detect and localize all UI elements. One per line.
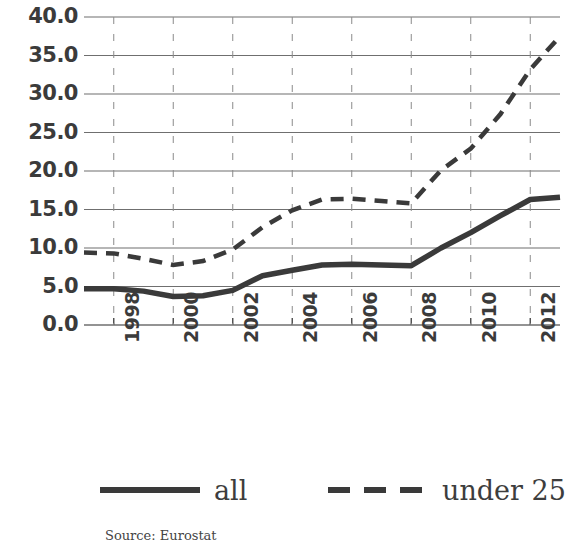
source-note: Source: Eurostat [105, 528, 217, 543]
series-line-under-25 [84, 36, 560, 265]
x-axis-tick-label: 2004 [301, 292, 320, 343]
chart-plot-area [0, 0, 576, 340]
x-axis-tick-label: 2008 [420, 292, 439, 343]
legend-label-all: all [214, 477, 247, 504]
y-axis-tick-label: 5.0 [0, 276, 78, 297]
y-axis-tick-label: 10.0 [0, 237, 78, 258]
x-axis-tick-label: 2006 [361, 292, 380, 343]
x-axis-tick-label: 2010 [480, 292, 499, 343]
gridlines [84, 17, 560, 325]
x-axis-tick-label: 2012 [539, 292, 558, 343]
y-axis-tick-label: 30.0 [0, 83, 78, 104]
y-axis-tick-label: 0.0 [0, 314, 78, 335]
line-chart-figure: 40.035.030.025.020.015.010.05.00.0 19982… [0, 0, 576, 555]
legend-entry-under-25: under 25 [328, 470, 566, 510]
legend-entry-all: all [100, 470, 247, 510]
series-line-all [84, 197, 560, 296]
legend-label-under-25: under 25 [442, 477, 566, 504]
y-axis-tick-label: 25.0 [0, 122, 78, 143]
y-axis-tick-label: 40.0 [0, 6, 78, 27]
legend-swatch-solid-icon [100, 483, 200, 497]
chart-legend: all under 25 [0, 470, 576, 516]
x-axis-tick-label: 1998 [123, 292, 142, 343]
y-axis-tick-label: 20.0 [0, 160, 78, 181]
x-axis-ticks [114, 318, 531, 325]
x-axis-tick-label: 2002 [242, 292, 261, 343]
y-axis-tick-label: 15.0 [0, 199, 78, 220]
x-axis-tick-label: 2000 [182, 292, 201, 343]
y-axis-tick-label: 35.0 [0, 45, 78, 66]
legend-swatch-dashed-icon [328, 483, 428, 497]
